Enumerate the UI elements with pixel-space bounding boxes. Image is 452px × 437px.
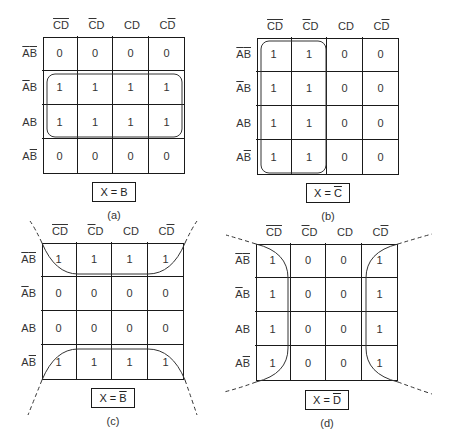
row-header: AB — [225, 117, 251, 129]
kmap-grid: 1001100110011001 — [256, 244, 398, 381]
kmap-cell: 1 — [149, 105, 185, 139]
row-header: AB — [225, 82, 251, 94]
kmap-cell: 0 — [326, 312, 362, 346]
column-header: CD — [42, 225, 78, 237]
variable-letter: D — [274, 226, 282, 238]
kmap-cell: 0 — [326, 278, 362, 312]
column-header: CD — [256, 226, 292, 238]
kmap-cell: 1 — [255, 243, 291, 277]
figure-caption-c: (c) — [93, 415, 133, 427]
variable-letter: A — [236, 151, 243, 163]
expression-variable: C — [334, 187, 342, 199]
row-header: AB — [224, 288, 250, 300]
kmap-cell: 0 — [363, 37, 399, 71]
variable-letter: C — [88, 225, 96, 237]
variable-letter: B — [30, 47, 37, 59]
kmap-cell: 1 — [255, 312, 291, 346]
column-header: CD — [114, 19, 150, 31]
kmap-cell: 1 — [113, 105, 149, 139]
column-header: CD — [43, 19, 79, 31]
column-header: CD — [113, 225, 149, 237]
variable-letter: B — [243, 357, 250, 369]
column-header: CD — [363, 226, 399, 238]
variable-letter: C — [337, 226, 345, 238]
simplified-expression: X = D — [305, 390, 349, 410]
expression-variable: B — [120, 186, 127, 198]
variable-letter: B — [30, 150, 37, 162]
kmap-cell: 0 — [77, 277, 113, 311]
variable-letter: C — [124, 19, 132, 31]
column-header: CD — [79, 19, 115, 31]
variable-letter: A — [235, 357, 242, 369]
kmap-cell: 1 — [292, 37, 328, 71]
kmap-cell: 1 — [78, 71, 114, 105]
kmap-cell: 0 — [291, 312, 327, 346]
row-header: AB — [224, 254, 250, 266]
variable-letter: B — [29, 322, 36, 334]
kmap-cell: 1 — [113, 71, 149, 105]
column-header: CD — [149, 225, 185, 237]
kmap-cell: 1 — [112, 345, 148, 379]
variable-letter: A — [235, 254, 242, 266]
figure-caption-d: (d) — [307, 417, 347, 429]
variable-letter: B — [244, 82, 251, 94]
kmap-cell: 1 — [42, 105, 78, 139]
kmap-cell: 0 — [291, 278, 327, 312]
expression-variable: B — [119, 392, 126, 404]
variable-letter: A — [22, 150, 29, 162]
variable-letter: D — [345, 226, 353, 238]
expression-lhs: X = — [99, 392, 119, 404]
kmap-cell: 0 — [113, 36, 149, 70]
row-header: AB — [10, 356, 36, 368]
kmap-cell: 0 — [78, 139, 114, 173]
kmap-cell: 0 — [326, 243, 362, 277]
kmap-cell: 1 — [78, 105, 114, 139]
variable-letter: B — [243, 323, 250, 335]
kmap-cell: 0 — [149, 139, 185, 173]
kmap-cell: 0 — [77, 311, 113, 345]
variable-letter: C — [267, 20, 275, 32]
variable-letter: A — [235, 323, 242, 335]
kmap-cell: 0 — [363, 140, 399, 174]
variable-letter: C — [52, 225, 60, 237]
column-header: CD — [328, 20, 364, 32]
kmap-cell: 1 — [255, 278, 291, 312]
row-header: AB — [11, 116, 37, 128]
kmap-cell: 1 — [256, 140, 292, 174]
variable-letter: B — [30, 116, 37, 128]
kmap-cell: 0 — [113, 139, 149, 173]
expression-lhs: X = — [100, 186, 120, 198]
kmap-grid: 0000111111110000 — [43, 37, 185, 174]
variable-letter: D — [167, 225, 175, 237]
kmap-cell: 1 — [362, 312, 398, 346]
variable-letter: C — [89, 19, 97, 31]
variable-letter: B — [244, 48, 251, 60]
column-header: CD — [293, 20, 329, 32]
column-header: CD — [78, 225, 114, 237]
kmap-cell: 0 — [327, 72, 363, 106]
simplified-expression: X = B — [91, 388, 135, 408]
kmap-cell: 1 — [41, 242, 77, 276]
variable-letter: D — [346, 20, 354, 32]
row-header: AB — [225, 48, 251, 60]
variable-letter: D — [275, 20, 283, 32]
kmap-cell: 0 — [148, 277, 184, 311]
expression-lhs: X = — [313, 394, 333, 406]
column-header: CD — [327, 226, 363, 238]
column-header: CD — [257, 20, 293, 32]
kmap-cell: 1 — [77, 345, 113, 379]
kmap-cell: 1 — [292, 140, 328, 174]
variable-letter: D — [131, 225, 139, 237]
row-header: AB — [10, 253, 36, 265]
row-header: AB — [224, 323, 250, 335]
variable-letter: B — [243, 254, 250, 266]
variable-letter: D — [381, 226, 389, 238]
kmap-cell: 0 — [78, 36, 114, 70]
kmap-cell: 0 — [42, 36, 78, 70]
variable-letter: B — [29, 356, 36, 368]
kmap-cell: 0 — [148, 311, 184, 345]
variable-letter: C — [374, 20, 382, 32]
variable-letter: D — [61, 19, 69, 31]
kmap-cell: 1 — [148, 242, 184, 276]
kmap-cell: 0 — [291, 243, 327, 277]
